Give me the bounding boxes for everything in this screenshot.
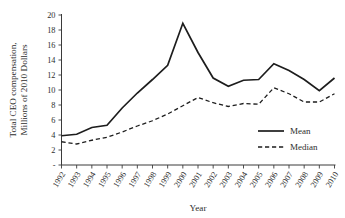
y-axis: -2468101214161820 (47, 11, 61, 170)
x-axis-tick-label: 1998 (142, 170, 158, 189)
x-axis-tick-label: 1999 (157, 170, 173, 189)
x-axis-tick-label: 1994 (81, 170, 98, 190)
x-axis-title-label: Year (190, 203, 207, 213)
y-axis-tick-label: 8 (51, 101, 55, 110)
y-axis-tick-label: 12 (47, 71, 55, 80)
x-axis-tick-label: 1992 (51, 170, 67, 189)
x-axis-tick-label: 1993 (66, 170, 82, 189)
chart-legend: MeanMedian (258, 126, 318, 152)
y-axis-title-line1: Total CEO compensation, (8, 42, 18, 137)
y-axis-tick-label: 10 (47, 86, 55, 95)
series-line-mean (62, 23, 335, 136)
x-axis-tick-label: 2008 (294, 170, 310, 189)
x-axis: 1992199319941995199619971998199920002001… (51, 165, 340, 189)
y-axis-tick-label: 14 (47, 56, 56, 65)
x-axis-tick-label: 2001 (187, 170, 203, 189)
x-axis-tick-label: 2002 (203, 170, 219, 189)
legend-label-median: Median (290, 142, 318, 152)
x-axis-tick-label: 2003 (218, 170, 234, 189)
y-axis-tick-label: 18 (47, 26, 55, 35)
line-chart: Total CEO compensation,Millions of 2010 … (0, 0, 345, 218)
x-axis-tick-label: 2007 (278, 170, 294, 189)
x-axis-tick-label: 2010 (324, 170, 340, 189)
x-axis-title: Year (190, 203, 207, 213)
x-axis-tick-label: 1997 (127, 170, 143, 189)
x-axis-tick-label: 1996 (112, 170, 128, 189)
x-axis-tick-label: 2004 (233, 170, 250, 190)
y-axis-tick-label: 4 (51, 131, 56, 140)
y-axis-tick-label: 16 (47, 41, 55, 50)
x-axis-tick-label: 1995 (96, 170, 112, 189)
legend-label-mean: Mean (290, 126, 311, 136)
x-axis-tick-label: 2005 (248, 170, 264, 189)
x-axis-tick-label: 2000 (172, 170, 188, 189)
chart-container: Total CEO compensation,Millions of 2010 … (0, 0, 345, 218)
y-axis-title-line2: Millions of 2010 Dollars (19, 44, 29, 136)
y-axis-title: Total CEO compensation,Millions of 2010 … (8, 42, 29, 137)
y-axis-tick-label: 6 (51, 116, 55, 125)
x-axis-tick-label: 2009 (309, 170, 325, 189)
y-axis-tick-label: 2 (51, 146, 55, 155)
y-axis-tick-label: - (53, 161, 56, 170)
x-axis-tick-label: 2006 (263, 170, 279, 189)
y-axis-tick-label: 20 (47, 11, 55, 20)
